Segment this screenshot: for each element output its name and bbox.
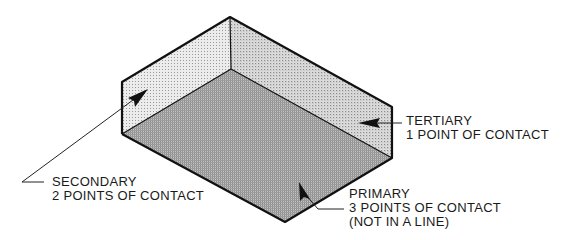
primary-note: (NOT IN A LINE) — [349, 215, 501, 229]
primary-title: PRIMARY — [349, 187, 501, 201]
primary-label: PRIMARY 3 POINTS OF CONTACT (NOT IN A LI… — [349, 187, 501, 229]
tertiary-label: TERTIARY 1 POINT OF CONTACT — [406, 114, 549, 142]
secondary-label: SECONDARY 2 POINTS OF CONTACT — [52, 175, 204, 203]
tertiary-detail: 1 POINT OF CONTACT — [406, 128, 549, 142]
primary-detail: 3 POINTS OF CONTACT — [349, 201, 501, 215]
tertiary-title: TERTIARY — [406, 114, 549, 128]
secondary-title: SECONDARY — [52, 175, 204, 189]
secondary-detail: 2 POINTS OF CONTACT — [52, 189, 204, 203]
